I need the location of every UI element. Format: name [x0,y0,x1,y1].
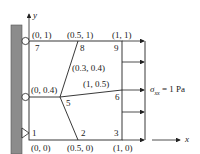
load-value: = 1 Pa [160,84,185,94]
node-1: 1 [32,129,37,138]
mesh-diagram [0,0,200,154]
y-axis-label: y [33,11,37,20]
coord-0-0: (0, 0) [31,144,51,153]
coord-0.3-0.4: (0.3, 0.4) [72,64,105,73]
coord-0-0.4: (0, 0.4) [31,86,57,95]
coord-0.5-1: (0.5, 1) [67,31,93,40]
node-5: 5 [66,99,71,108]
pin-support-icon [22,128,29,138]
traction-arrows [122,41,144,140]
roller-support-top [22,37,29,44]
coord-0.5-0: (0.5, 0) [67,144,93,153]
node-2: 2 [81,129,86,138]
coord-0-1: (0, 1) [32,31,52,40]
coord-1-0: (1, 0) [113,144,133,153]
fixed-wall [11,25,22,154]
node-3: 3 [114,129,119,138]
coord-1-1: (1, 1) [112,31,132,40]
node-7: 7 [35,44,40,53]
roller-support-mid [22,93,29,100]
node-9: 9 [114,44,119,53]
load-label: σxx = 1 Pa [150,85,185,96]
node-6: 6 [115,93,120,102]
x-axis-label: x [185,135,189,144]
coord-1-0.5: (1, 0.5) [83,80,109,89]
node-8: 8 [80,44,85,53]
